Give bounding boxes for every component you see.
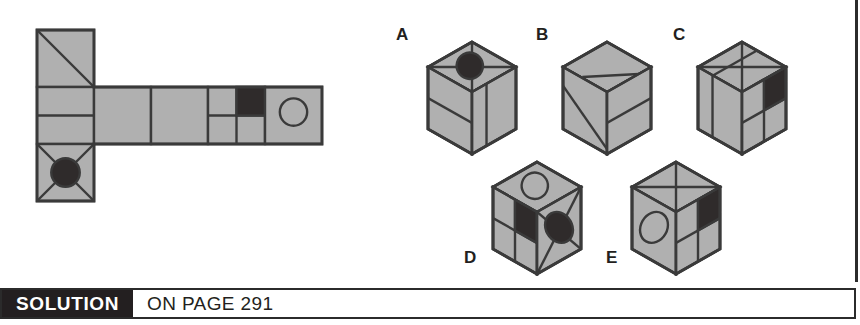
net-cell-5	[265, 87, 322, 144]
net-cell-2	[94, 87, 151, 144]
net-cell-2-face	[94, 87, 151, 144]
cube-option-c[interactable]	[698, 42, 786, 154]
solution-label: SOLUTION	[2, 290, 133, 317]
cube-option-e[interactable]	[632, 162, 720, 274]
cube-options	[428, 42, 786, 274]
cube-option-d[interactable]	[493, 162, 581, 274]
cube-option-b-label: B	[536, 25, 548, 45]
cube-option-d-label: D	[464, 248, 476, 268]
net-cell-4-dark-quadrant	[237, 87, 266, 116]
cube-net	[37, 30, 322, 201]
cube-option-a-label: A	[396, 25, 408, 45]
net-cell-left-mid	[37, 87, 94, 144]
net-cell-3-face	[151, 87, 208, 144]
net-cell-4	[208, 87, 265, 144]
net-cell-bottom	[37, 144, 94, 201]
puzzle-page: A B C D E SOLUTION ON PAGE 291	[0, 0, 860, 325]
solution-footer-bar: SOLUTION ON PAGE 291	[0, 288, 856, 319]
cube-option-c-label: C	[673, 25, 685, 45]
solution-page-text: ON PAGE 291	[133, 290, 274, 317]
cube-option-e-label: E	[606, 248, 617, 268]
puzzle-figure	[0, 0, 860, 290]
cube-option-b[interactable]	[563, 42, 651, 154]
cube-option-a[interactable]	[428, 42, 516, 154]
net-cell-top	[37, 30, 94, 87]
net-cell-bottom-filled-circle	[51, 158, 80, 187]
net-cell-3	[151, 87, 208, 144]
net-cell-5-face	[265, 87, 322, 144]
